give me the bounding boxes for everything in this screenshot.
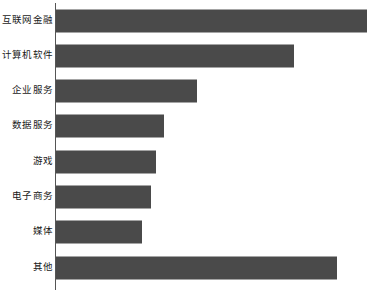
plot-area: 互联网金融计算机软件企业服务数据服务游戏电子商务媒体其他: [0, 0, 375, 303]
bar-row: 计算机软件: [0, 38, 375, 73]
bar-category-label: 游戏: [33, 157, 53, 167]
bar: [56, 44, 294, 67]
bar: [56, 115, 164, 138]
bar-category-label: 电子商务: [12, 192, 53, 202]
bar-row: 互联网金融: [0, 3, 375, 38]
bar-row: 媒体: [0, 215, 375, 250]
bar-category-label: 数据服务: [12, 122, 53, 132]
bar-row: 游戏: [0, 144, 375, 179]
bar-chart: 互联网金融计算机软件企业服务数据服务游戏电子商务媒体其他: [0, 0, 375, 303]
bar-row: 数据服务: [0, 109, 375, 144]
bar-row: 其他: [0, 250, 375, 285]
bar: [56, 256, 337, 279]
bar: [56, 9, 367, 32]
bar: [56, 186, 151, 209]
bar-category-label: 互联网金融: [2, 16, 53, 26]
bar-category-label: 企业服务: [12, 86, 53, 96]
bar-category-label: 媒体: [33, 228, 53, 238]
bar-category-label: 计算机软件: [2, 51, 53, 61]
bar: [56, 150, 156, 173]
bar-row: 电子商务: [0, 180, 375, 215]
bar: [56, 221, 142, 244]
bar: [56, 80, 197, 103]
bar-row: 企业服务: [0, 74, 375, 109]
bar-category-label: 其他: [33, 263, 53, 273]
